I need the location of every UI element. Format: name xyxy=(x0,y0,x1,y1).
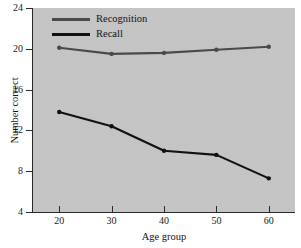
data-point-recall-30 xyxy=(109,124,113,128)
data-point-recall-40 xyxy=(162,149,166,153)
data-point-recall-20 xyxy=(57,110,61,114)
legend-item-recall: Recall xyxy=(52,27,172,42)
data-point-recognition-30 xyxy=(109,52,113,56)
series-line-recall xyxy=(59,112,269,178)
data-point-recognition-20 xyxy=(57,46,61,50)
chart-legend: Recognition Recall xyxy=(52,12,172,42)
legend-item-recognition: Recognition xyxy=(52,12,172,27)
legend-label-recognition: Recognition xyxy=(96,12,147,26)
y-axis-title: Number correct xyxy=(9,51,20,171)
legend-swatch-recognition xyxy=(52,18,90,21)
data-point-recognition-50 xyxy=(214,48,218,52)
data-point-recall-60 xyxy=(267,176,271,180)
x-axis-title: Age group xyxy=(33,231,295,242)
data-point-recall-50 xyxy=(214,153,218,157)
legend-swatch-recall xyxy=(52,33,90,36)
data-point-recognition-60 xyxy=(267,45,271,49)
data-point-recognition-40 xyxy=(162,51,166,55)
line-chart-figure: 4812162024 2030405060 Recognition Recall… xyxy=(0,0,301,248)
legend-label-recall: Recall xyxy=(96,27,123,41)
